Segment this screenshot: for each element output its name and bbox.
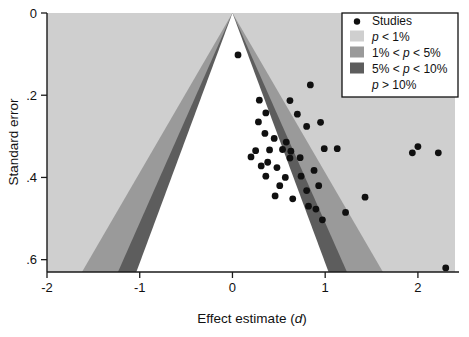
legend-dot-marker: [354, 18, 360, 24]
data-point: [272, 193, 279, 200]
data-point: [435, 149, 442, 156]
data-point: [235, 52, 242, 59]
data-point: [279, 146, 286, 153]
legend-swatch: [350, 63, 364, 74]
data-point: [362, 194, 369, 201]
legend-swatch: [350, 47, 364, 58]
data-point: [298, 173, 305, 180]
data-point: [258, 163, 265, 170]
x-tick-label: -2: [41, 280, 53, 295]
data-point: [303, 123, 310, 130]
y-axis-ticks: 0.2.4.6: [26, 6, 47, 268]
data-point: [255, 119, 262, 126]
data-point: [287, 97, 294, 104]
data-point: [289, 195, 296, 202]
funnel-plot-figure: -2-1012 0.2.4.6 Standard error Effect es…: [0, 0, 469, 337]
data-point: [283, 139, 290, 146]
x-axis-title-plain: Effect estimate (: [197, 311, 295, 326]
data-point: [311, 167, 318, 174]
data-point: [274, 164, 281, 171]
data-point: [264, 159, 271, 166]
data-point: [334, 145, 341, 152]
legend-swatch: [350, 31, 364, 42]
data-point: [287, 148, 294, 155]
data-point: [342, 209, 349, 216]
legend: Studiesp < 1%1% < p < 5%5% < p < 10%p > …: [342, 13, 458, 97]
data-point: [262, 130, 269, 137]
data-point: [262, 110, 269, 117]
data-point: [282, 174, 289, 181]
data-point: [266, 147, 273, 154]
data-point: [415, 143, 422, 150]
legend-label: 5% < p < 10%: [372, 62, 448, 76]
y-tick-label: .2: [26, 88, 37, 103]
x-axis-ticks: -2-1012: [41, 272, 421, 295]
data-point: [319, 216, 326, 223]
data-point: [315, 182, 322, 189]
y-axis-title: Standard error: [6, 98, 21, 186]
data-point: [248, 153, 255, 160]
data-point: [262, 173, 269, 180]
x-tick-label: 1: [322, 280, 329, 295]
y-tick-label: 0: [30, 6, 37, 21]
data-point: [303, 187, 310, 194]
data-point: [409, 149, 416, 156]
funnel-plot-svg: -2-1012 0.2.4.6 Standard error Effect es…: [0, 0, 469, 337]
legend-label: 1% < p < 5%: [372, 46, 441, 60]
x-axis-title-close: ): [302, 311, 307, 326]
x-axis-title: Effect estimate (d): [197, 311, 306, 326]
data-point: [317, 119, 324, 126]
x-tick-label: 0: [229, 280, 236, 295]
data-point: [321, 145, 328, 152]
legend-label: p > 10%: [371, 78, 417, 92]
data-point: [271, 135, 278, 142]
data-point: [307, 82, 314, 89]
data-point: [276, 182, 283, 189]
y-tick-label: .6: [26, 252, 37, 267]
legend-label: Studies: [372, 14, 412, 28]
x-tick-label: 2: [414, 280, 421, 295]
data-point: [442, 264, 449, 271]
data-point: [287, 155, 294, 162]
x-tick-label: -1: [134, 280, 146, 295]
data-point: [252, 147, 259, 154]
data-point: [297, 154, 304, 161]
data-point: [313, 206, 320, 213]
y-tick-label: .4: [26, 170, 37, 185]
data-point: [256, 97, 263, 104]
data-point: [294, 111, 301, 118]
data-point: [305, 203, 312, 210]
legend-label: p < 1%: [371, 30, 410, 44]
